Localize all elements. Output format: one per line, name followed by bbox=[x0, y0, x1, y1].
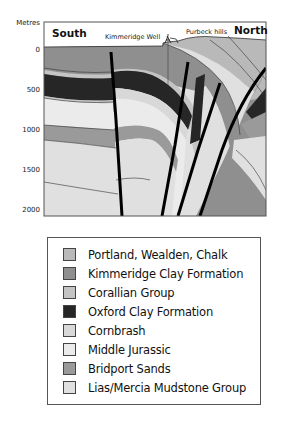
north-label: North bbox=[234, 24, 268, 36]
swatch-icon bbox=[63, 343, 76, 356]
geological-cross-section: Metres 0 500 1000 1500 2000 bbox=[0, 0, 281, 225]
purbeck-hills-label: Purbeck hills bbox=[186, 28, 228, 36]
swatch-icon bbox=[63, 286, 76, 299]
legend-item-oxford-clay: Oxford Clay Formation bbox=[63, 302, 213, 321]
legend-item-cornbrash: Cornbrash bbox=[63, 321, 145, 340]
legend-label: Bridport Sands bbox=[88, 362, 170, 376]
south-label: South bbox=[52, 27, 87, 39]
legend-item-lias-mercia: Lias/Mercia Mudstone Group bbox=[63, 378, 246, 397]
swatch-icon bbox=[63, 248, 76, 261]
legend-label: Cornbrash bbox=[88, 324, 145, 338]
swatch-icon bbox=[63, 267, 76, 280]
legend-label: Middle Jurassic bbox=[88, 343, 171, 357]
legend-label: Corallian Group bbox=[88, 286, 174, 300]
legend-item-middle-jurassic: Middle Jurassic bbox=[63, 340, 171, 359]
legend-label: Lias/Mercia Mudstone Group bbox=[88, 381, 246, 395]
swatch-icon bbox=[63, 305, 76, 318]
legend-item-bridport-sands: Bridport Sands bbox=[63, 359, 170, 378]
legend-label: Portland, Wealden, Chalk bbox=[88, 248, 227, 262]
legend-label: Kimmeridge Clay Formation bbox=[88, 267, 243, 281]
legend-item-corallian: Corallian Group bbox=[63, 283, 174, 302]
legend: Portland, Wealden, Chalk Kimmeridge Clay… bbox=[47, 237, 261, 405]
legend-label: Oxford Clay Formation bbox=[88, 305, 213, 319]
swatch-icon bbox=[63, 324, 76, 337]
legend-item-kimmeridge-clay: Kimmeridge Clay Formation bbox=[63, 264, 243, 283]
swatch-icon bbox=[63, 362, 76, 375]
kimmeridge-well-label: Kimmeridge Well bbox=[105, 33, 160, 41]
section-svg: South North Kimmeridge Well Purbeck hill… bbox=[0, 0, 281, 225]
legend-item-portland: Portland, Wealden, Chalk bbox=[63, 245, 227, 264]
swatch-icon bbox=[63, 381, 76, 394]
